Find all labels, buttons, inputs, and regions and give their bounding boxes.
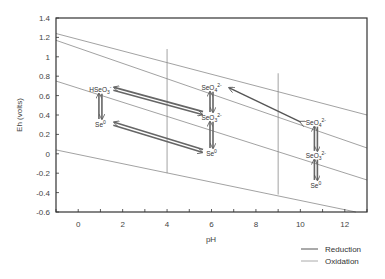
y-tick-label: 1	[46, 53, 51, 62]
species-label: SeO42-	[306, 117, 327, 128]
y-axis-title: Eh (volts)	[15, 98, 24, 132]
y-tick-label: 1.2	[39, 33, 51, 42]
y-tick-label: 0.4	[39, 111, 51, 120]
x-tick-label: 12	[340, 220, 349, 229]
species-label: Se0	[206, 148, 217, 157]
x-tick-label: 10	[296, 220, 305, 229]
oxidation-arrow	[114, 87, 203, 111]
legend: Reduction Oxidation	[301, 245, 361, 266]
y-tick-label: 1.4	[39, 14, 51, 23]
y-tick-label: 0.8	[39, 72, 51, 81]
legend-label-oxidation: Oxidation	[325, 257, 359, 266]
x-tick-label: 4	[165, 220, 170, 229]
x-tick-label: 8	[254, 220, 259, 229]
reduction-arrow	[113, 90, 202, 114]
species-label: Se0	[95, 119, 106, 128]
legend-label-reduction: Reduction	[325, 245, 361, 254]
reduction-arrow	[113, 125, 202, 152]
eh-ph-diagram: HSeO3-Se0SeO42-SeO32-Se0SeO42-SeO32-Se0 …	[0, 0, 385, 279]
y-tick-label: -0.2	[36, 169, 50, 178]
y-tick-label: -0.6	[36, 208, 50, 217]
species-label: SeO42-	[201, 82, 222, 93]
x-axis-title: pH	[206, 235, 216, 244]
oxidation-arrow	[114, 122, 203, 149]
y-tick-label: 0.2	[39, 130, 51, 139]
x-tick-label: 2	[120, 220, 125, 229]
y-tick-label: -0.4	[36, 189, 50, 198]
species-label: SeO32-	[306, 150, 327, 161]
x-tick-label: 0	[76, 220, 81, 229]
species-label: Se0	[311, 180, 322, 189]
species-label: SeO32-	[201, 112, 222, 123]
transition-arrow	[229, 88, 300, 122]
y-tick-label: 0	[46, 150, 51, 159]
y-tick-label: 0.6	[39, 92, 51, 101]
x-tick-label: 6	[209, 220, 214, 229]
